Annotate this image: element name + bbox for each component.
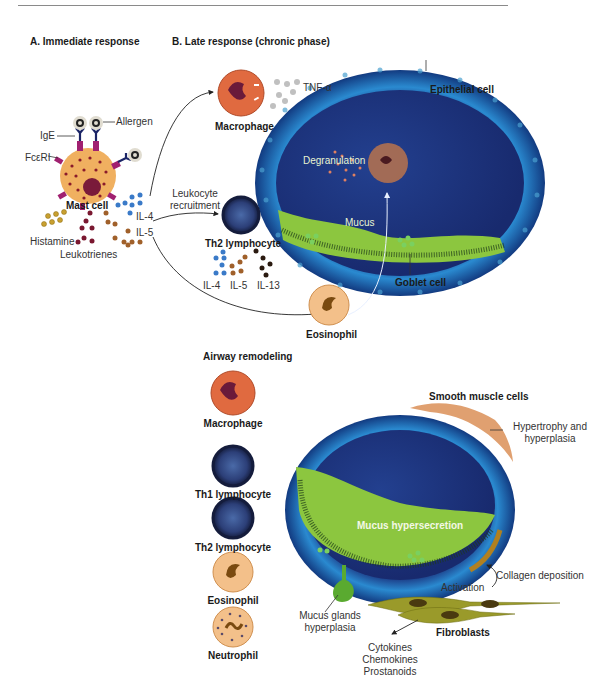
label-goblet-cell: Goblet cell [395, 277, 446, 289]
label-collagen-deposition: Collagen deposition [496, 570, 584, 582]
histamine-dots [42, 210, 67, 227]
arrow-to-macrophage [150, 92, 213, 196]
label-remodel-th1: Th1 lymphocyte [178, 489, 288, 501]
label-epithelial-cell: Epithelial cell [430, 84, 494, 96]
section-c-title: Airway remodeling [203, 351, 292, 362]
label-glands-line2: hyperplasia [290, 622, 370, 634]
label-fceri: FcεRI [25, 152, 51, 164]
label-mucus-glands: Mucus glands hyperplasia [290, 610, 370, 634]
arrow-fibroblast-products [392, 620, 418, 634]
label-il4-mast: IL-4 [136, 211, 153, 223]
tnf-dots [270, 79, 300, 109]
label-smooth-muscle: Smooth muscle cells [429, 391, 528, 403]
label-remodel-eosinophil: Eosinophil [193, 595, 273, 607]
label-macrophage-late: Macrophage [215, 121, 274, 133]
label-histamine: Histamine [30, 236, 74, 248]
label-fibroblasts: Fibroblasts [436, 627, 490, 639]
section-a-title: A. Immediate response [30, 36, 139, 47]
label-hypertrophy-line1: Hypertrophy and [500, 421, 600, 433]
label-remodel-th2: Th2 lymphocyte [178, 542, 288, 554]
section-b-title: B. Late response (chronic phase) [172, 36, 330, 47]
th2-il5-dots [230, 255, 248, 276]
label-fibroblast-products: Cytokines Chemokines Prostanoids [350, 642, 430, 678]
label-th2-il5: IL-5 [230, 280, 247, 292]
airway-remodeled [285, 403, 515, 612]
label-mucus: Mucus [345, 217, 374, 229]
label-leukocyte-line1: Leukocyte [160, 188, 230, 200]
label-allergen: Allergen [116, 116, 153, 128]
label-mucus-hypersecretion: Mucus hypersecretion [357, 520, 463, 532]
label-glands-line1: Mucus glands [290, 610, 370, 622]
label-cytokines: Cytokines [350, 642, 430, 654]
label-leukotrienes: Leukotrienes [60, 249, 117, 261]
label-th2-late: Th2 lymphocyte [205, 238, 281, 250]
label-il5-mast: IL-5 [136, 227, 153, 239]
label-activation: Activation [441, 582, 484, 594]
leukotriene-dots [76, 211, 95, 245]
label-ige: IgE [40, 130, 55, 142]
label-mast-cell: Mast cell [66, 200, 108, 212]
label-th2-il13: IL-13 [257, 280, 280, 292]
label-th2-il4: IL-4 [203, 280, 220, 292]
label-prostanoids: Prostanoids [350, 666, 430, 678]
label-remodel-macrophage: Macrophage [193, 418, 273, 430]
label-leukocyte-recruitment: Leukocyte recruitment [160, 188, 230, 212]
th2-il4-dots [214, 250, 227, 276]
mast-cell-nucleus [83, 178, 101, 196]
arrow-to-th2 [153, 213, 218, 221]
label-degranulation: Degranulation [303, 155, 365, 167]
eosinophil-late [309, 285, 349, 325]
th2-il13-dots [254, 249, 273, 278]
label-hypertrophy: Hypertrophy and hyperplasia [500, 421, 600, 445]
label-hypertrophy-line2: hyperplasia [500, 433, 600, 445]
mast-cell-body [60, 148, 116, 204]
label-remodel-neutrophil: Neutrophil [193, 650, 273, 662]
diagram-canvas [0, 0, 611, 688]
macrophage-late [218, 70, 264, 116]
mast-cell-figure [48, 116, 142, 210]
label-tnf: TNF-α [303, 82, 332, 94]
label-chemokines: Chemokines [350, 654, 430, 666]
label-leukocyte-line2: recruitment [160, 200, 230, 212]
label-eosinophil-late: Eosinophil [306, 329, 357, 341]
